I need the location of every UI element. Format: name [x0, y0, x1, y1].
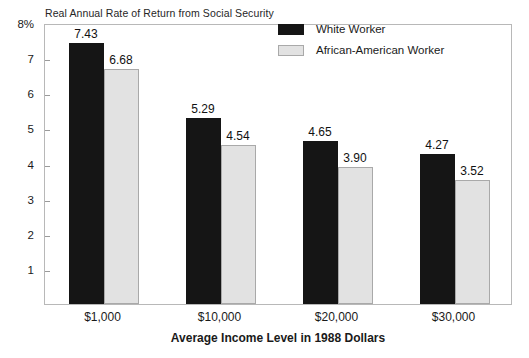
bar-value-label: 7.43 — [60, 28, 112, 41]
y-axis-tick-label: 3 — [28, 194, 34, 206]
x-axis-title: Average Income Level in 1988 Dollars — [44, 331, 512, 345]
y-axis-tick-label: 7 — [28, 53, 34, 65]
y-axis-tick-label: 8% — [17, 18, 34, 30]
bar-group: 4.273.52 — [396, 25, 513, 304]
bar-group: 4.653.90 — [279, 25, 396, 304]
plot-area: 7.436.685.294.544.653.904.273.52 — [44, 24, 512, 305]
bar-1-3[interactable] — [455, 180, 490, 304]
chart-title: Real Annual Rate of Return from Social S… — [45, 7, 274, 20]
bar-value-label: 4.27 — [411, 139, 463, 152]
bar-0-1[interactable] — [186, 118, 221, 304]
legend-swatch-icon-african-american-worker — [278, 45, 304, 56]
x-axis: $1,000$10,000$20,000$30,000 — [44, 310, 512, 326]
legend-label-white-worker: White Worker — [316, 23, 385, 36]
x-axis-tick-label: $1,000 — [48, 310, 158, 324]
y-axis-tick-label: 5 — [28, 123, 34, 135]
x-axis-tick-label: $10,000 — [165, 310, 275, 324]
bar-group: 5.294.54 — [162, 25, 279, 304]
legend-label-african-american-worker: African-American Worker — [316, 44, 444, 57]
y-axis: 8%7654321 — [0, 24, 40, 305]
y-axis-tick-label: 1 — [28, 264, 34, 276]
bar-1-2[interactable] — [338, 167, 373, 304]
bottom-edge-artifact — [0, 352, 529, 358]
bar-value-label: 4.65 — [294, 126, 346, 139]
bar-group: 7.436.68 — [45, 25, 162, 304]
y-axis-tick-label: 2 — [28, 229, 34, 241]
bar-value-label: 3.52 — [446, 165, 498, 178]
legend-swatch-icon-white-worker — [278, 24, 304, 35]
y-axis-tick-label: 6 — [28, 88, 34, 100]
x-axis-tick-label: $20,000 — [282, 310, 392, 324]
y-axis-tick-label: 4 — [28, 159, 34, 171]
bar-value-label: 6.68 — [95, 54, 147, 67]
bar-value-label: 5.29 — [177, 103, 229, 116]
x-axis-tick-label: $30,000 — [399, 310, 509, 324]
legend-item-african-american-worker: African-American Worker — [278, 40, 453, 61]
plot-inner: 7.436.685.294.544.653.904.273.52 — [45, 25, 511, 304]
bar-0-0[interactable] — [69, 43, 104, 304]
bar-0-2[interactable] — [303, 141, 338, 304]
legend-item-white-worker: White Worker — [278, 19, 453, 40]
bar-1-0[interactable] — [104, 69, 139, 304]
bar-value-label: 4.54 — [212, 130, 264, 143]
bar-value-label: 3.90 — [329, 152, 381, 165]
bar-1-1[interactable] — [221, 145, 256, 304]
chart-legend: White Worker African-American Worker — [278, 19, 453, 61]
